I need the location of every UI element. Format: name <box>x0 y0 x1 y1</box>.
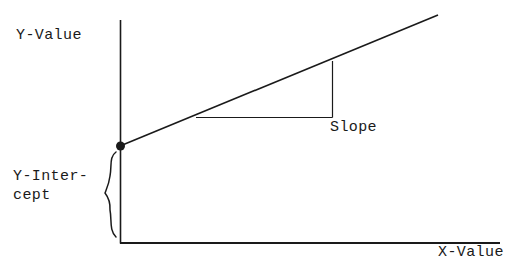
y-intercept-label-line2: cept <box>13 187 51 204</box>
y-intercept-label-line1: Y-Inter- <box>13 168 88 185</box>
slope-intercept-diagram: Y-Value Y-Inter-cept Slope X-Value <box>0 0 527 276</box>
y-axis-label: Y-Value <box>16 26 82 45</box>
y-intercept-brace-icon <box>105 152 116 237</box>
slope-label: Slope <box>330 118 377 137</box>
trend-line <box>120 15 438 146</box>
y-intercept-point <box>116 142 125 151</box>
x-axis-label: X-Value <box>438 243 504 262</box>
y-intercept-label: Y-Inter-cept <box>13 167 88 205</box>
